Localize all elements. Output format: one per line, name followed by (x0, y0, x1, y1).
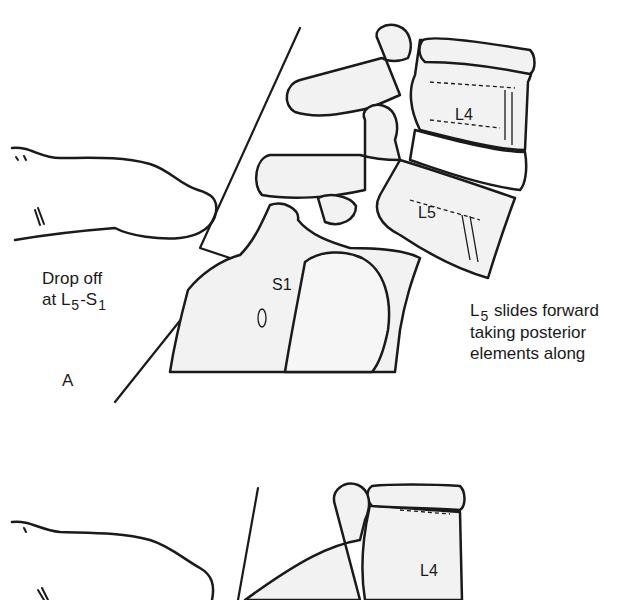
drop-off-line1: Drop off (42, 268, 107, 289)
slides-line2: taking posterior (470, 322, 599, 343)
l4-endplate-b (368, 485, 465, 511)
l4-label-b: L4 (420, 562, 438, 580)
facet (318, 195, 356, 224)
slides-line1: L5 slides forward (470, 300, 599, 322)
s1-label: S1 (272, 276, 292, 294)
text-dash-s: -S (80, 290, 97, 309)
text-at-l: at L (42, 290, 70, 309)
skin-line-b (238, 488, 258, 600)
l5-posterior (256, 105, 400, 198)
l5-label: L5 (418, 204, 436, 222)
drop-off-line2: at L5-S1 (42, 289, 107, 311)
spondylolisthesis-illustration: L4 L5 S1 L4 Drop off at L5-S1 A L5 slide… (0, 0, 641, 600)
slides-line3: elements along (470, 343, 599, 364)
l4-posterior (287, 25, 411, 115)
subscript-5: 5 (71, 297, 79, 313)
text-l: L (470, 301, 479, 320)
l5-slides-annotation: L5 slides forward taking posterior eleme… (470, 300, 599, 364)
subscript-5: 5 (480, 308, 488, 324)
finger-outline-a (12, 148, 216, 240)
drop-off-annotation: Drop off at L5-S1 (42, 268, 107, 311)
text-slides-forward: slides forward (489, 301, 599, 320)
l4-posterior-b (245, 484, 369, 600)
subscript-1: 1 (98, 297, 106, 313)
panel-a-label: A (62, 370, 73, 391)
l4-body-b (362, 505, 462, 600)
l4-label: L4 (455, 106, 473, 124)
